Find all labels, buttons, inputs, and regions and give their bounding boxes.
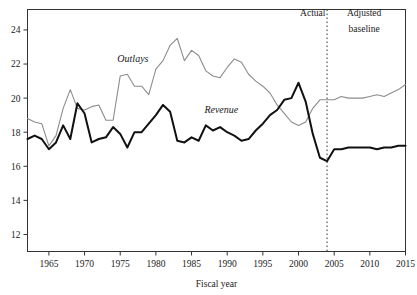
series-line-revenue bbox=[28, 83, 406, 161]
x-tick-label: 1975 bbox=[111, 259, 130, 269]
chart-canvas: 12141618202224 1965197019751980198519901… bbox=[0, 0, 417, 295]
x-axis-title: Fiscal year bbox=[196, 279, 238, 289]
y-tick-label: 14 bbox=[11, 196, 21, 206]
x-tick-label: 1995 bbox=[253, 259, 272, 269]
y-axis-tick-labels: 12141618202224 bbox=[11, 25, 21, 240]
x-tick-label: 2005 bbox=[325, 259, 344, 269]
y-tick-label: 12 bbox=[11, 230, 21, 240]
y-tick-label: 20 bbox=[11, 94, 21, 104]
y-tick-label: 18 bbox=[11, 128, 21, 138]
data-series-group bbox=[28, 38, 406, 161]
y-tick-label: 24 bbox=[11, 25, 21, 35]
x-tick-label: 1965 bbox=[39, 259, 58, 269]
plot-border bbox=[28, 10, 406, 252]
x-tick-label: 1980 bbox=[146, 259, 165, 269]
y-tick-label: 22 bbox=[11, 59, 21, 69]
x-tick-label: 1985 bbox=[182, 259, 201, 269]
plot-frame bbox=[28, 10, 406, 252]
x-tick-label: 2010 bbox=[360, 259, 379, 269]
outlays-series-label: Outlays bbox=[117, 53, 148, 64]
axis-ticks bbox=[24, 30, 406, 256]
x-tick-label: 2015 bbox=[396, 259, 415, 269]
x-axis-title-text: Fiscal year bbox=[196, 279, 238, 289]
revenue-series-label: Revenue bbox=[203, 104, 238, 115]
adjusted-baseline-region-label-line1: Adjusted bbox=[347, 8, 382, 18]
x-tick-label: 2000 bbox=[289, 259, 308, 269]
x-tick-label: 1970 bbox=[75, 259, 94, 269]
x-tick-label: 1990 bbox=[218, 259, 237, 269]
chart-figure: 12141618202224 1965197019751980198519901… bbox=[0, 0, 417, 295]
x-axis-tick-labels: 1965197019751980198519901995200020052010… bbox=[39, 259, 415, 269]
adjusted-baseline-region-label-line2: baseline bbox=[349, 24, 380, 34]
y-tick-label: 16 bbox=[11, 162, 21, 172]
actual-region-label: Actual bbox=[300, 8, 326, 18]
chart-annotations: ActualAdjustedbaselineOutlaysRevenue bbox=[117, 8, 381, 114]
